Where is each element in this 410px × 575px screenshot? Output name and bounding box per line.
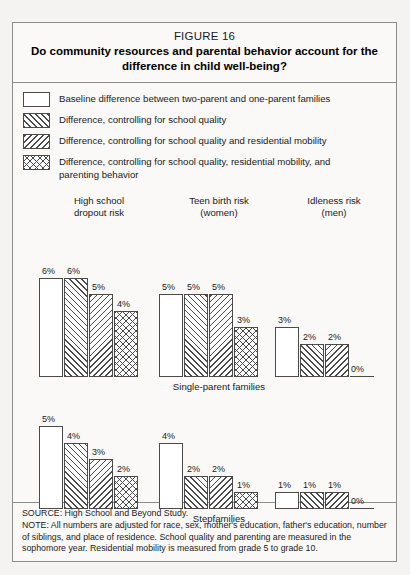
legend-swatch-forward-diagonal-icon bbox=[23, 113, 50, 128]
bar-rect bbox=[114, 476, 138, 509]
bar-rect bbox=[275, 327, 299, 377]
bar: 3% bbox=[234, 327, 258, 377]
bar: 6% bbox=[39, 278, 63, 377]
bar-value-label: 2% bbox=[303, 332, 316, 342]
bar: 2% bbox=[209, 476, 233, 509]
bar: 1% bbox=[300, 492, 324, 509]
bar-value-label: 4% bbox=[67, 431, 80, 441]
bar: 5% bbox=[209, 294, 233, 377]
legend-swatch-crosshatch-icon bbox=[23, 155, 50, 170]
bar-value-label: 0% bbox=[351, 496, 364, 506]
title-block: FIGURE 16 Do community resources and par… bbox=[13, 23, 396, 83]
bar-value-label: 4% bbox=[117, 299, 130, 309]
bar: 1% bbox=[275, 492, 299, 509]
footer-note: NOTE: All numbers are adjusted for race,… bbox=[22, 520, 388, 555]
bar: 4% bbox=[114, 311, 138, 377]
legend-item: Difference, controlling for school quali… bbox=[23, 155, 396, 181]
legend-item-label: Difference, controlling for school quali… bbox=[59, 134, 327, 147]
bar-value-label: 5% bbox=[187, 282, 200, 292]
bar: 5% bbox=[89, 294, 113, 377]
bar-rect bbox=[234, 492, 258, 509]
bar-rect bbox=[209, 476, 233, 509]
bar: 5% bbox=[39, 426, 63, 509]
bar-rect bbox=[300, 492, 324, 509]
panel-header-line2: (men) bbox=[275, 207, 393, 219]
bar-rect bbox=[209, 294, 233, 377]
bar: 4% bbox=[64, 443, 88, 509]
bar-value-label: 6% bbox=[42, 266, 55, 276]
bar-rect bbox=[300, 344, 324, 377]
bar: 2% bbox=[325, 344, 349, 377]
panel-header-teen-birth: Teen birth risk (women) bbox=[159, 195, 279, 220]
bar-value-label: 1% bbox=[328, 480, 341, 490]
bar-rect bbox=[184, 294, 208, 377]
figure-frame: FIGURE 16 Do community resources and par… bbox=[12, 22, 397, 562]
bar-rect bbox=[39, 426, 63, 509]
panel-headers: High school dropout risk Teen birth risk… bbox=[13, 195, 396, 225]
footer: SOURCE: High School and Beyond Study. NO… bbox=[13, 502, 396, 561]
bar-rect bbox=[325, 344, 349, 377]
plot-area: High school dropout risk Teen birth risk… bbox=[13, 191, 396, 502]
bar-value-label: 3% bbox=[92, 447, 105, 457]
bar-value-label: 5% bbox=[92, 282, 105, 292]
bar: 1% bbox=[234, 492, 258, 509]
bar-value-label: 0% bbox=[351, 364, 364, 374]
row-label-stepfamilies: Stepfamilies bbox=[159, 513, 279, 524]
panel-header-line2: (women) bbox=[159, 207, 279, 219]
bar-rect bbox=[89, 459, 113, 509]
bar: 1% bbox=[325, 492, 349, 509]
bar-value-label: 2% bbox=[117, 464, 130, 474]
bar-rect bbox=[64, 278, 88, 377]
legend-item: Baseline difference between two-parent a… bbox=[23, 92, 396, 107]
bar-value-label: 2% bbox=[187, 464, 200, 474]
bar: 6% bbox=[64, 278, 88, 377]
row-label-single-parent: Single-parent families bbox=[159, 381, 279, 392]
bar-value-label: 5% bbox=[162, 282, 175, 292]
zero-baseline bbox=[350, 508, 374, 509]
figure-title: Do community resources and parental beha… bbox=[23, 44, 386, 74]
bar: 2% bbox=[184, 476, 208, 509]
bar-rect bbox=[159, 443, 183, 509]
legend-item-label: Difference, controlling for school quali… bbox=[59, 155, 369, 181]
bar-rect bbox=[159, 294, 183, 377]
bar: 2% bbox=[300, 344, 324, 377]
legend-swatch-blank-icon bbox=[23, 92, 50, 107]
panel-header-line1: Teen birth risk bbox=[159, 195, 279, 207]
bar-rect bbox=[234, 327, 258, 377]
bar-zero: 0% bbox=[350, 376, 374, 377]
bar-value-label: 2% bbox=[212, 464, 225, 474]
panel-header-idleness: Idleness risk (men) bbox=[275, 195, 393, 220]
figure-number: FIGURE 16 bbox=[23, 30, 386, 42]
bar: 3% bbox=[89, 459, 113, 509]
bar-rect bbox=[89, 294, 113, 377]
panel-header-line1: High school bbox=[39, 195, 159, 207]
bar-value-label: 1% bbox=[303, 480, 316, 490]
bar-zero: 0% bbox=[350, 508, 374, 509]
bar-value-label: 3% bbox=[278, 315, 291, 325]
bar-value-label: 4% bbox=[162, 431, 175, 441]
bar-rect bbox=[39, 278, 63, 377]
legend-item-label: Baseline difference between two-parent a… bbox=[59, 92, 330, 105]
bar-rect bbox=[114, 311, 138, 377]
bar-rect bbox=[275, 492, 299, 509]
bar-value-label: 2% bbox=[328, 332, 341, 342]
bar-value-label: 1% bbox=[237, 480, 250, 490]
bar-rect bbox=[64, 443, 88, 509]
legend-item: Difference, controlling for school quali… bbox=[23, 113, 396, 128]
bar: 4% bbox=[159, 443, 183, 509]
bar-rect bbox=[325, 492, 349, 509]
bar-value-label: 5% bbox=[212, 282, 225, 292]
panel-header-line1: Idleness risk bbox=[275, 195, 393, 207]
bar-value-label: 5% bbox=[42, 414, 55, 424]
bar-value-label: 6% bbox=[67, 266, 80, 276]
legend-swatch-backward-diagonal-icon bbox=[23, 134, 50, 149]
bar: 5% bbox=[184, 294, 208, 377]
bar-value-label: 3% bbox=[237, 315, 250, 325]
panel-header-dropout: High school dropout risk bbox=[39, 195, 159, 220]
bar: 3% bbox=[275, 327, 299, 377]
bar-rect bbox=[184, 476, 208, 509]
panel-header-line2: dropout risk bbox=[39, 207, 159, 219]
legend-item-label: Difference, controlling for school quali… bbox=[59, 113, 226, 126]
zero-baseline bbox=[350, 376, 374, 377]
bar: 2% bbox=[114, 476, 138, 509]
